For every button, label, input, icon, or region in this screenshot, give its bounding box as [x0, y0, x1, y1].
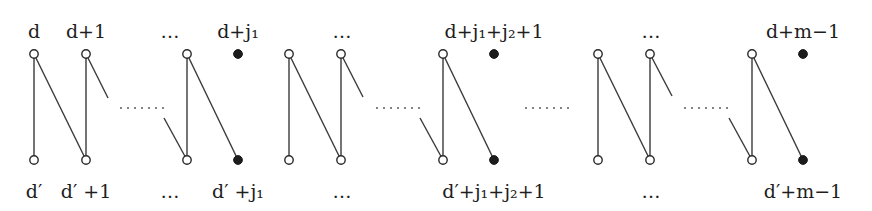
- group-1: [30, 50, 243, 165]
- bottom-label: d′ +1: [61, 180, 112, 202]
- edge-partial-diagonal: [729, 118, 752, 160]
- edge-partial-diagonal: [650, 54, 672, 96]
- node-open: [646, 50, 654, 58]
- node-open: [439, 50, 447, 58]
- top-labels: d d+1 … d+j₁ … d+j₁+j₂+1 … d+m−1: [28, 20, 840, 42]
- node-open: [82, 50, 90, 58]
- top-label-ellipsis: …: [161, 20, 180, 42]
- top-label: d: [28, 20, 40, 42]
- group-2: [285, 50, 499, 165]
- node-open: [337, 50, 345, 58]
- edge-diagonal: [598, 54, 650, 160]
- edge-diagonal: [752, 54, 803, 160]
- bottom-label: d′+m−1: [764, 180, 842, 202]
- edge-partial-diagonal: [420, 118, 443, 160]
- edge-partial-diagonal: [341, 54, 363, 97]
- top-label: d+j₁+j₂+1: [444, 20, 543, 42]
- node-open: [439, 156, 447, 164]
- edge-partial-diagonal: [164, 118, 187, 160]
- node-filled: [799, 156, 808, 165]
- edge-diagonal: [443, 54, 494, 160]
- node-open: [646, 156, 654, 164]
- bottom-label: d′+j₁+j₂+1: [442, 180, 545, 202]
- node-open: [82, 156, 90, 164]
- bottom-label-ellipsis: …: [333, 180, 352, 202]
- group-3: [594, 50, 808, 165]
- node-open: [594, 156, 602, 164]
- node-open: [285, 50, 293, 58]
- bottom-label: d′: [26, 180, 42, 202]
- node-filled: [490, 156, 499, 165]
- edge-diagonal: [187, 54, 238, 160]
- node-open: [30, 50, 38, 58]
- edge-diagonal: [34, 54, 86, 160]
- node-filled: [234, 156, 243, 165]
- node-filled: [490, 50, 499, 59]
- node-open: [748, 50, 756, 58]
- top-label-ellipsis: …: [333, 20, 352, 42]
- node-open: [748, 156, 756, 164]
- top-label: d+j₁: [217, 20, 259, 42]
- node-open: [594, 50, 602, 58]
- edge-diagonal: [289, 54, 341, 160]
- node-filled: [799, 50, 808, 59]
- node-open: [183, 50, 191, 58]
- node-open: [285, 156, 293, 164]
- top-label-ellipsis: …: [642, 20, 661, 42]
- node-open: [30, 156, 38, 164]
- bottom-labels: d′ d′ +1 … d′ +j₁ … d′+j₁+j₂+1 … d′+m−1: [26, 180, 842, 202]
- top-label: d+m−1: [766, 20, 840, 42]
- top-label: d+1: [66, 20, 106, 42]
- node-open: [183, 156, 191, 164]
- node-open: [337, 156, 345, 164]
- bottom-label-ellipsis: …: [642, 180, 661, 202]
- edge-partial-diagonal: [86, 54, 108, 98]
- matching-diagram: d d+1 … d+j₁ … d+j₁+j₂+1 … d+m−1 d′ d′ +…: [0, 0, 872, 211]
- node-filled: [234, 50, 243, 59]
- bottom-label: d′ +j₁: [212, 180, 264, 202]
- bottom-label-ellipsis: …: [161, 180, 180, 202]
